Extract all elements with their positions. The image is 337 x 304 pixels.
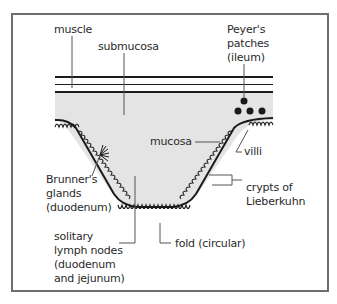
label-peyers-patches: Peyer's patches (ileum) bbox=[227, 23, 269, 65]
label-fold: fold (circular) bbox=[175, 237, 245, 251]
label-solitary-lymph-nodes: solitary lymph nodes (duodenum and jejun… bbox=[54, 230, 125, 286]
label-villi: villi bbox=[244, 145, 262, 159]
label-submucosa: submucosa bbox=[98, 40, 159, 54]
label-crypts-of-lieberkuhn: crypts of Lieberkuhn bbox=[246, 181, 305, 209]
label-brunners-glands: Brunner's glands (duodenum) bbox=[46, 173, 112, 215]
label-muscle: muscle bbox=[54, 23, 92, 37]
label-mucosa: mucosa bbox=[150, 135, 192, 149]
intestine-wall-diagram bbox=[0, 0, 337, 304]
